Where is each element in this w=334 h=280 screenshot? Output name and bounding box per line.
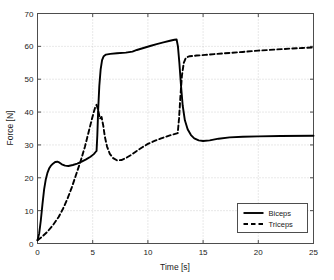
x-axis-title: Time [s] bbox=[160, 262, 190, 272]
y-tick-label: 40 bbox=[25, 108, 34, 117]
legend-label-biceps: Biceps bbox=[269, 209, 292, 218]
chart-legend[interactable]: BicepsTriceps bbox=[238, 204, 308, 233]
force-time-line-chart: 0102030405060700510152025 Time [s] Force… bbox=[0, 0, 334, 280]
x-tick-label: 20 bbox=[254, 248, 263, 257]
y-tick-label: 60 bbox=[25, 42, 34, 51]
x-tick-label: 25 bbox=[309, 248, 318, 257]
y-tick-label: 0 bbox=[29, 240, 34, 249]
legend-label-triceps: Triceps bbox=[269, 220, 294, 229]
y-tick-label: 10 bbox=[25, 207, 34, 216]
y-tick-label: 20 bbox=[25, 174, 34, 183]
x-tick-label: 15 bbox=[199, 248, 208, 257]
chart-figure: 0102030405060700510152025 Time [s] Force… bbox=[0, 0, 334, 280]
y-axis-title: Force [N] bbox=[5, 111, 15, 146]
x-tick-label: 10 bbox=[143, 248, 152, 257]
y-tick-label: 50 bbox=[25, 75, 34, 84]
y-tick-label: 30 bbox=[25, 141, 34, 150]
x-tick-label: 5 bbox=[90, 248, 95, 257]
y-tick-label: 70 bbox=[25, 10, 34, 19]
x-tick-label: 0 bbox=[35, 248, 40, 257]
